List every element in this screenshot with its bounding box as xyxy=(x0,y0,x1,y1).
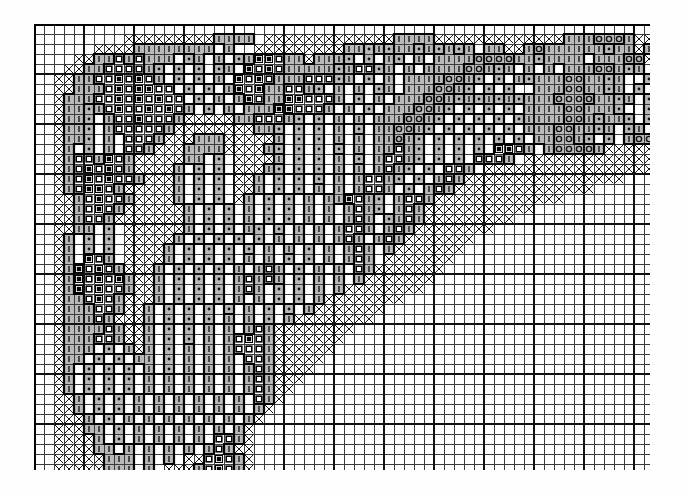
stitch-grid[interactable] xyxy=(34,24,650,470)
stitch-grid-canvas[interactable] xyxy=(34,24,650,470)
pattern-chart-root xyxy=(0,0,685,493)
